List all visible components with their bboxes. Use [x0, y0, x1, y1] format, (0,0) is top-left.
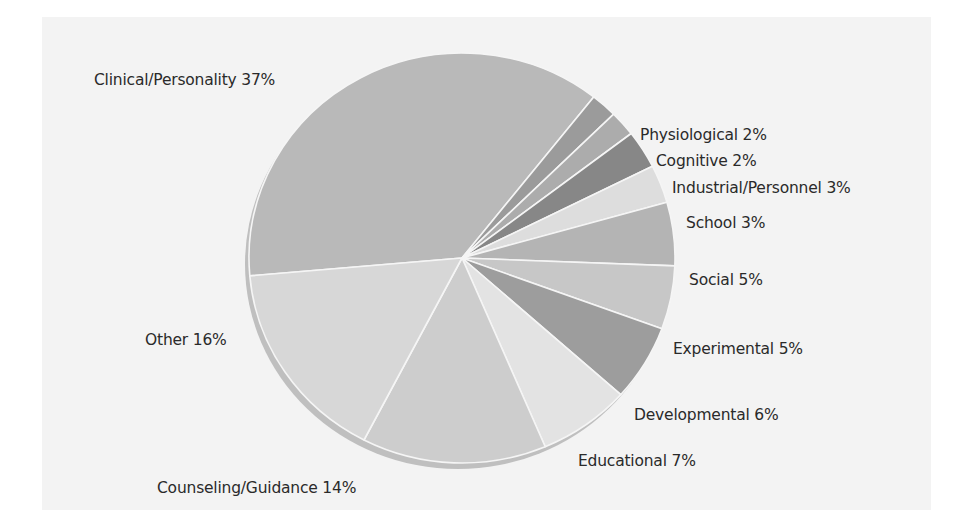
- label-counseling-guidance: Counseling/Guidance 14%: [157, 479, 356, 497]
- label-industrial-personnel: Industrial/Personnel 3%: [672, 179, 851, 197]
- label-clinical-personality: Clinical/Personality 37%: [94, 71, 275, 89]
- label-other: Other 16%: [145, 331, 227, 349]
- label-physiological: Physiological 2%: [640, 126, 767, 144]
- label-experimental: Experimental 5%: [673, 340, 803, 358]
- label-educational: Educational 7%: [578, 452, 696, 470]
- label-social: Social 5%: [689, 271, 763, 289]
- label-cognitive: Cognitive 2%: [656, 152, 756, 170]
- pie-slices: [249, 53, 675, 463]
- label-school: School 3%: [686, 214, 765, 232]
- label-developmental: Developmental 6%: [634, 406, 778, 424]
